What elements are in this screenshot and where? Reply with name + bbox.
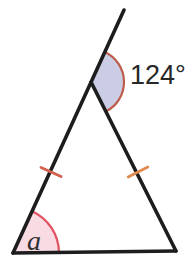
exterior-angle-label: 124° xyxy=(130,60,186,90)
left-side-extended-line xyxy=(13,10,124,253)
right-side-line xyxy=(91,82,176,251)
figure-container: 124° a xyxy=(0,0,189,275)
isosceles-triangle-diagram: 124° a xyxy=(0,0,189,275)
base-angle-label: a xyxy=(27,225,41,256)
exterior-angle-sector xyxy=(91,52,124,111)
